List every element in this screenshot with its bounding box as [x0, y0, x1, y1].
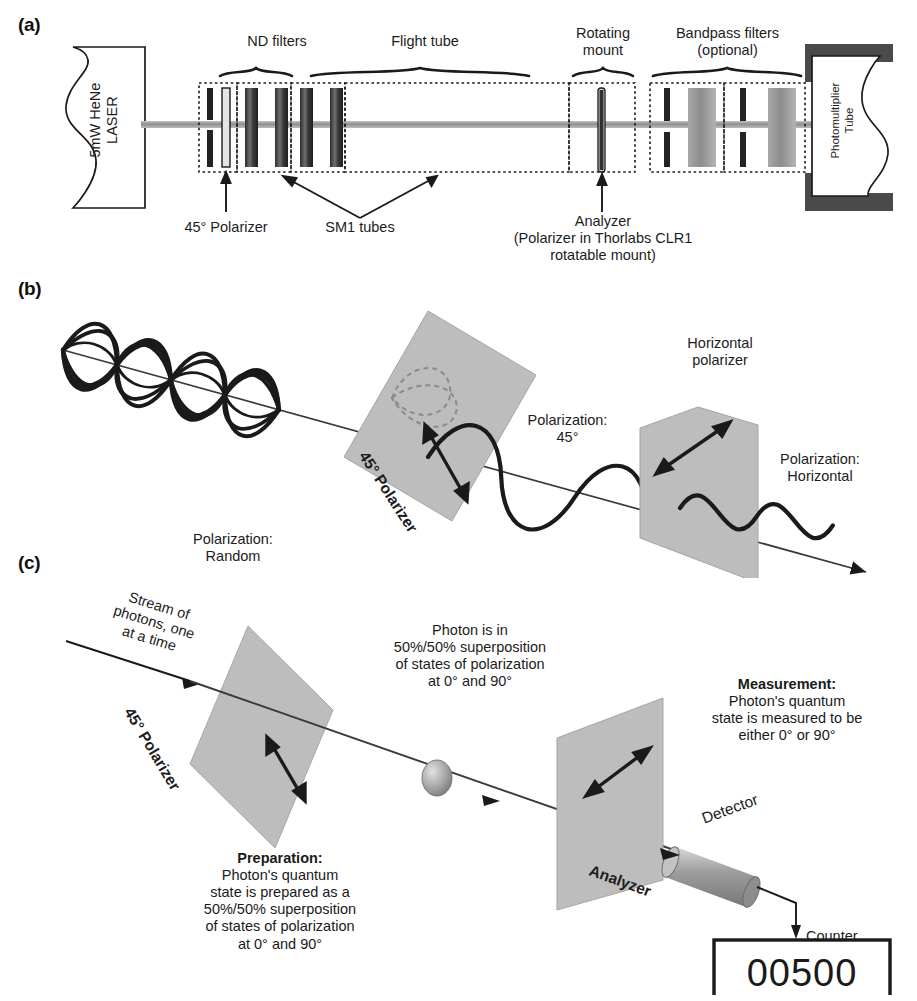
- nd-filter-4: [330, 88, 343, 167]
- pmt-label: Photomultiplier Tube: [829, 66, 856, 176]
- panel-c-label-counter: Counter: [806, 928, 896, 945]
- nd-filter-1: [245, 88, 258, 167]
- bracket-label-nd-filters: ND filters: [232, 33, 322, 50]
- bracket-bandpass: [653, 68, 801, 76]
- bracket-label-flight-tube: Flight tube: [375, 33, 475, 50]
- panel-c-label-superposition: Photon is in 50%/50% superposition of st…: [345, 622, 595, 690]
- panel-b-label-horizontal-polarizer: Horizontal polarizer: [640, 335, 800, 369]
- panel-b-label-polarization-horizontal: Polarization: Horizontal: [740, 451, 900, 485]
- nd-filter-2: [275, 88, 288, 167]
- laser-source-label: 5mW HeNe LASER: [87, 60, 121, 180]
- preparation-block: Preparation: Photon's quantum state is p…: [165, 850, 395, 953]
- analyzer-element: [598, 88, 605, 172]
- panel-b-label-polarization-45: Polarization: 45°: [490, 412, 645, 446]
- brackets: [220, 68, 801, 76]
- bandpass-filter-1: [688, 88, 716, 167]
- callout-arrows: [222, 172, 607, 218]
- counter-arrow: [791, 925, 801, 939]
- polarizer-45-element: [222, 88, 230, 167]
- measurement-body: Photon's quantum state is measured to be…: [672, 693, 902, 744]
- measurement-heading: Measurement:: [672, 676, 902, 693]
- panel-b-label-polarization-random: Polarization: Random: [153, 531, 313, 565]
- measurement-block: Measurement: Photon's quantum state is m…: [672, 676, 902, 744]
- bandpass-filter-2: [768, 88, 796, 167]
- bracket-label-rotating-mount: Rotating mount: [563, 25, 643, 59]
- callout-label-analyzer: Analyzer (Polarizer in Thorlabs CLR1 rot…: [497, 213, 709, 264]
- photon-sphere: [422, 760, 452, 796]
- nd-filter-3: [300, 88, 313, 167]
- callout-label-sm1-tubes: SM1 tubes: [300, 219, 420, 236]
- bracket-label-bandpass-filters: Bandpass filters (optional): [660, 25, 795, 59]
- horizontal-polarizer-plane: [640, 407, 758, 578]
- detector-to-counter-line: [757, 887, 796, 929]
- random-polarization-waves: [48, 315, 294, 445]
- counter-value: 00500: [714, 952, 890, 995]
- callout-label-polarizer-45: 45° Polarizer: [161, 219, 291, 236]
- bracket-nd-filters: [220, 68, 292, 76]
- bracket-flight-tube: [311, 68, 529, 76]
- panel-b-svg: [0, 288, 917, 578]
- preparation-heading: Preparation:: [165, 850, 395, 867]
- mid-axis-arrow: [482, 795, 500, 806]
- bracket-rotating-mount: [573, 68, 633, 76]
- preparation-body: Photon's quantum state is prepared as a …: [165, 867, 395, 953]
- figure-root: (a) (b) (c): [0, 0, 917, 1001]
